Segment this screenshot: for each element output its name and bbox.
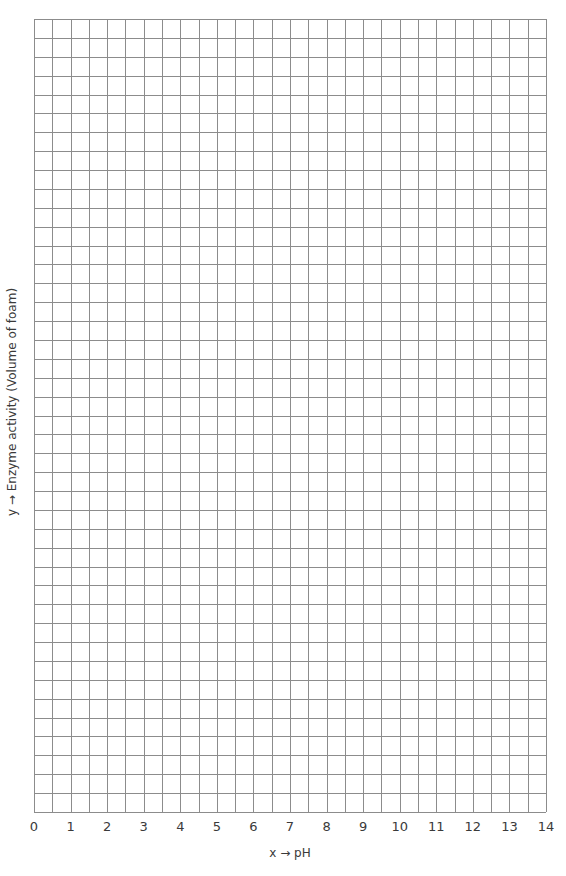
x-tick-label: 13 xyxy=(501,819,518,834)
x-tick-label: 5 xyxy=(213,819,221,834)
x-tick-label: 14 xyxy=(538,819,555,834)
x-tick-label: 12 xyxy=(465,819,482,834)
x-axis-title: x → pH xyxy=(269,846,310,860)
x-tick-label: 4 xyxy=(176,819,184,834)
x-tick-label: 3 xyxy=(140,819,148,834)
x-tick-label: 9 xyxy=(359,819,367,834)
grid-paper xyxy=(34,19,547,813)
x-axis-tick-labels: 01234567891011121314 xyxy=(30,819,554,834)
x-tick-label: 0 xyxy=(30,819,38,834)
chart: 01234567891011121314 x → pH y → Enzyme a… xyxy=(0,0,566,876)
x-tick-label: 6 xyxy=(249,819,257,834)
x-tick-label: 11 xyxy=(428,819,445,834)
x-tick-label: 10 xyxy=(391,819,408,834)
x-tick-label: 1 xyxy=(66,819,74,834)
x-tick-label: 8 xyxy=(322,819,330,834)
y-axis-title: y → Enzyme activity (Volume of foam) xyxy=(5,288,19,516)
x-tick-label: 2 xyxy=(103,819,111,834)
x-tick-label: 7 xyxy=(286,819,294,834)
